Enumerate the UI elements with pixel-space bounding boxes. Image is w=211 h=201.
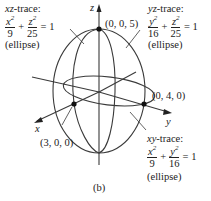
figure-caption: (b): [93, 183, 105, 194]
point-0-0-5: [96, 26, 101, 31]
point-0-4-0: [141, 101, 146, 106]
xz-trace-equation: x29 + z225 = 1: [5, 16, 54, 39]
point-label-top: (0, 0, 5): [105, 19, 138, 30]
x-axis: [37, 92, 99, 121]
z-axis-label: z: [90, 3, 94, 14]
y-arrow-icon: [163, 109, 172, 115]
z-arrow-icon: [97, 4, 102, 12]
xy-trace-kind: (ellipse): [147, 172, 181, 183]
xz-trace-kind: (ellipse): [5, 40, 39, 51]
point-label-y: (0, 4, 0): [152, 91, 185, 102]
xy-trace-annotation: xy-trace:: [147, 134, 183, 145]
xz-leader: [70, 29, 84, 44]
x-axis-label: x: [35, 124, 40, 135]
y-axis-negative: [32, 77, 99, 92]
yz-leader: [126, 30, 140, 48]
yz-trace-annotation: yz-trace:: [148, 4, 184, 15]
xz-trace-annotation: xz-trace:: [5, 4, 41, 15]
xy-leader: [130, 112, 146, 130]
y-axis-label: y: [166, 117, 171, 128]
yz-trace-equation: y216 + z225 = 1: [148, 16, 198, 39]
xy-trace-equation: x29 + y216 = 1: [147, 146, 196, 169]
yz-trace-kind: (ellipse): [148, 40, 182, 51]
x-point-leader: [62, 107, 72, 125]
point-label-x: (3, 0, 0): [40, 138, 73, 149]
point-3-0-0: [71, 101, 76, 106]
x-axis-negative: [99, 72, 136, 92]
